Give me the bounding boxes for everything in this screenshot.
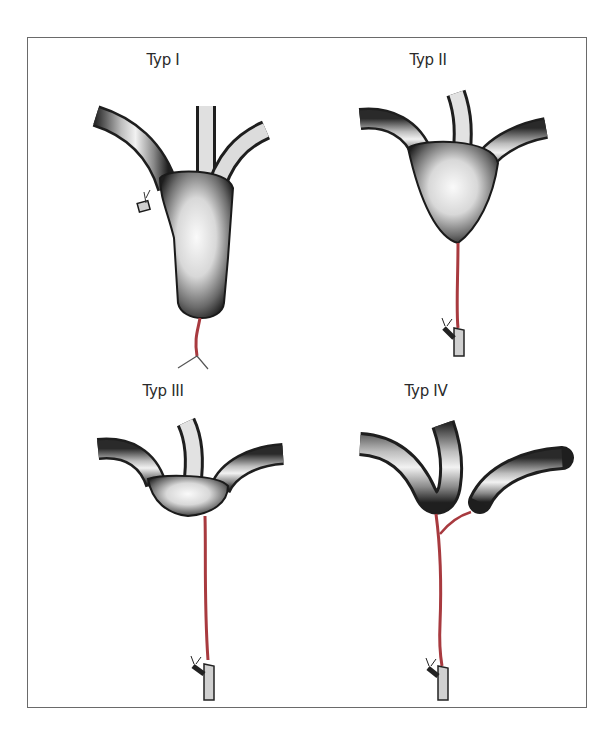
- bile-duct-illustration-typ-4: [308, 374, 588, 709]
- bile-duct-illustration-typ-1: [28, 38, 308, 373]
- panel-typ-3: Typ III: [28, 374, 308, 709]
- bile-duct-illustration-typ-2: [308, 38, 588, 373]
- panel-typ-2: Typ II: [308, 38, 588, 373]
- panel-typ-1: Typ I: [28, 38, 308, 373]
- figure-frame: Typ I Typ II: [27, 37, 587, 708]
- bile-duct-illustration-typ-3: [28, 374, 308, 709]
- panel-typ-4: Typ IV: [308, 374, 588, 709]
